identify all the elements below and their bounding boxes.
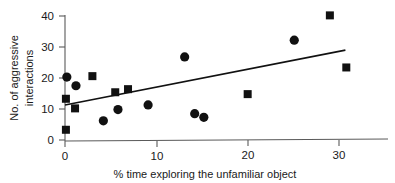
data-point-square	[244, 90, 252, 98]
y-tick-label-40: 40	[41, 10, 54, 22]
data-point-square	[88, 72, 96, 80]
x-axis	[65, 139, 388, 147]
data-point-square	[71, 104, 79, 112]
data-point-circle	[62, 72, 71, 81]
x-tick-label-20: 20	[242, 149, 255, 161]
y-axis-title: No. of aggressive interactions	[8, 35, 35, 121]
plot-canvas: 40 30 20 10 0 0 10 20 30 % time explorin…	[0, 0, 395, 183]
data-point-circle	[180, 52, 189, 61]
data-point-square	[62, 126, 70, 134]
data-point-circle	[99, 116, 108, 125]
y-axis-title-line-2: interactions	[23, 49, 35, 106]
y-tick-label-0: 0	[48, 134, 54, 146]
x-tick-label-0: 0	[62, 150, 68, 162]
regression-trend-line	[65, 50, 345, 105]
x-tick-label-10: 10	[151, 150, 164, 162]
data-point-circle	[71, 81, 80, 90]
data-point-circle	[190, 109, 199, 118]
data-point-square	[342, 63, 350, 71]
scatter-plot-figure: 40 30 20 10 0 0 10 20 30 % time explorin…	[0, 0, 395, 183]
y-axis-title-line-1: No. of aggressive	[8, 35, 20, 121]
data-point-square	[326, 11, 334, 19]
data-point-circle	[113, 105, 122, 114]
x-tick-label-30: 30	[333, 149, 346, 161]
y-tick-label-20: 20	[41, 72, 54, 84]
y-tick-label-10: 10	[41, 103, 54, 115]
data-point-square	[62, 95, 70, 103]
data-point-square	[124, 85, 132, 93]
data-point-square	[111, 88, 119, 96]
x-axis-title: % time exploring the unfamiliar object	[114, 168, 297, 180]
data-point-circle	[144, 100, 153, 109]
data-markers-group	[62, 11, 350, 133]
data-point-circle	[290, 36, 299, 45]
data-point-circle	[199, 113, 208, 122]
y-tick-label-30: 30	[41, 41, 54, 53]
